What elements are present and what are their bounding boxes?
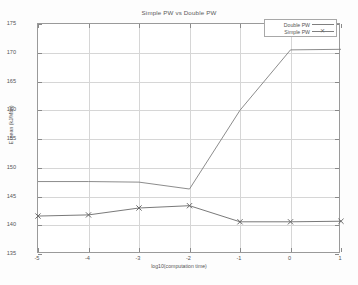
- x-tick-mark: [341, 248, 342, 252]
- x-tick-label: -4: [73, 255, 103, 261]
- y-tick-label: 135: [0, 250, 16, 256]
- x-tick-label: -1: [224, 255, 254, 261]
- data-series-layer: [38, 24, 341, 254]
- plot-area: [37, 23, 340, 253]
- legend-swatch-double-pw: [312, 21, 334, 28]
- x-tick-label: -3: [123, 255, 153, 261]
- y-tick-label: 175: [0, 20, 16, 26]
- series-line-simple-pw: [38, 206, 341, 222]
- y-tick-label: 160: [0, 106, 16, 112]
- chart-legend: Double PW Simple PW ✕: [264, 19, 337, 37]
- x-tick-label: 1: [325, 255, 355, 261]
- x-marker-icon: ✕: [320, 28, 325, 35]
- chart-title: Simple PW vs Double PW: [0, 9, 358, 16]
- x-tick-label: -2: [174, 255, 204, 261]
- y-tick-label: 170: [0, 49, 16, 55]
- legend-item-double-pw: Double PW: [267, 21, 334, 28]
- legend-swatch-simple-pw: ✕: [312, 28, 334, 35]
- legend-label-double-pw: Double PW: [284, 22, 310, 28]
- legend-label-simple-pw: Simple PW: [284, 29, 310, 35]
- x-tick-label: -5: [22, 255, 52, 261]
- y-tick-label: 145: [0, 193, 16, 199]
- x-axis-label: log10(computation time): [0, 263, 358, 269]
- x-tick-label: 0: [275, 255, 305, 261]
- series-line-double-pw: [38, 49, 341, 189]
- chart-figure: Simple PW vs Double PW E mean (kJ/Mbit) …: [0, 0, 358, 285]
- y-tick-label: 155: [0, 135, 16, 141]
- y-tick-label: 140: [0, 221, 16, 227]
- legend-item-simple-pw: Simple PW ✕: [267, 28, 334, 35]
- y-tick-label: 150: [0, 164, 16, 170]
- y-tick-label: 165: [0, 78, 16, 84]
- x-tick-mark: [341, 24, 342, 28]
